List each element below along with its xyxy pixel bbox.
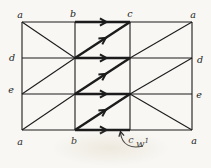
scanned-figure-page: abcaddeeabcaw1 — [0, 0, 211, 168]
vertex-label-a-bottom-left: a — [17, 136, 23, 147]
figure-svg: abcaddeeabcaw1 — [0, 0, 211, 168]
edge-w-diag-mid — [75, 58, 130, 94]
edge-diag-right-bottom — [130, 94, 192, 130]
vertex-label-c-top: c — [127, 8, 133, 19]
vertex-label-c-bottom: c — [128, 134, 134, 145]
vertex-label-e-right: e — [196, 89, 202, 100]
vertex-label-a-bottom-right: a — [191, 135, 197, 146]
edge-diag-right-mid — [130, 58, 192, 94]
edge-w-diag-bottom — [75, 94, 130, 130]
vertex-label-b-bottom: b — [71, 135, 77, 146]
edge-diag-left-bottom — [22, 94, 75, 130]
vertex-label-d-left: d — [9, 52, 15, 63]
edge-diag-right-top — [130, 22, 192, 58]
edge-diag-left-top — [22, 22, 75, 58]
edge-diag-left-mid — [22, 58, 75, 94]
vertex-label-e-left: e — [8, 84, 14, 95]
edge-w-diag-top — [75, 22, 130, 58]
vertex-label-b-top: b — [70, 8, 76, 19]
vertex-label-a-top-right: a — [190, 9, 196, 20]
vertex-label-d-right: d — [197, 54, 203, 65]
vertex-label-a-top-left: a — [17, 9, 23, 20]
curve-label-w1: w1 — [136, 137, 149, 150]
